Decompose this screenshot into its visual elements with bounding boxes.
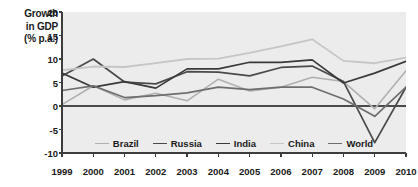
series-lines [62,12,406,153]
y-tick-label: 15 [34,30,58,41]
x-tick-label: 2006 [270,166,291,177]
gdp-growth-line-chart: Growth in GDP (% p.a.) 20151050-5-10 199… [0,0,418,187]
y-tick-label: 20 [34,7,58,18]
x-tick-label: 2003 [177,166,198,177]
x-tick-label: 2004 [208,166,229,177]
x-tick-label: 2002 [145,166,166,177]
y-tick-label: -10 [34,148,58,159]
x-axis-tick-labels: 1999200020012002200320042005200620072008… [62,166,406,182]
x-tick-label: 2005 [239,166,260,177]
y-tick-label: -5 [34,124,58,135]
x-tick-label: 2000 [83,166,104,177]
x-tick-label: 2010 [395,166,416,177]
plot-region [62,12,406,153]
x-tick-label: 2008 [333,166,354,177]
x-tick-label: 1999 [51,166,72,177]
y-axis-tick-labels: 20151050-5-10 [30,12,58,153]
series-line-russia [62,59,406,143]
y-tick-label: 5 [34,77,58,88]
y-tick-label: 10 [34,54,58,65]
y-tick-label: 0 [34,101,58,112]
x-tick-label: 2009 [364,166,385,177]
x-tick-label: 2001 [114,166,135,177]
x-tick-label: 2007 [302,166,323,177]
